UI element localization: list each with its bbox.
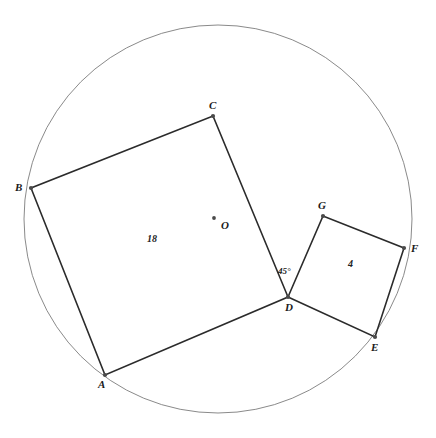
vertex-dot-b (29, 186, 33, 190)
vertex-markers (29, 114, 406, 377)
vertex-label-a: A (98, 379, 105, 390)
vertex-dot-g (321, 214, 325, 218)
vertex-dot-c (211, 114, 215, 118)
geometry-canvas (0, 0, 436, 438)
circumscribed-circle (24, 25, 412, 413)
center-point-marker (212, 216, 216, 220)
angle-label-45: 45° (278, 267, 291, 276)
area-label-small-square: 4 (348, 259, 353, 269)
geometry-figure: A B C D E F G O 18 4 45° (0, 0, 436, 438)
vertex-label-e: E (371, 342, 378, 353)
vertex-label-b: B (15, 182, 22, 193)
vertex-label-g: G (318, 200, 326, 211)
center-label-o: O (221, 220, 229, 231)
vertex-dot-d (286, 295, 290, 299)
vertex-label-d: D (285, 302, 293, 313)
large-square-ABCD (31, 116, 288, 375)
vertex-label-f: F (411, 243, 418, 254)
vertex-dot-a (103, 373, 107, 377)
small-square-DEFG (288, 216, 404, 337)
area-label-large-square: 18 (147, 234, 157, 244)
vertex-dot-f (402, 246, 406, 250)
vertex-dot-e (373, 335, 377, 339)
vertex-label-c: C (209, 100, 216, 111)
